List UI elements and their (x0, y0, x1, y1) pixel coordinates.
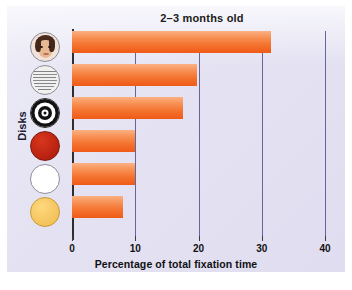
yellow-disk-icon (27, 196, 62, 227)
newsprint-disk-icon (27, 64, 62, 95)
gridline-30 (262, 31, 263, 236)
tick-label-20: 20 (193, 243, 204, 254)
tick-20 (199, 236, 200, 241)
tick-0 (72, 236, 73, 241)
bar-white-disk (72, 163, 135, 185)
disk-icon-column (27, 31, 65, 236)
tick-label-0: 0 (69, 243, 75, 254)
bar-newsprint-disk (72, 64, 197, 86)
tick-label-10: 10 (130, 243, 141, 254)
tick-40 (325, 236, 326, 241)
gridline-10 (135, 31, 136, 236)
bar-red-disk (72, 130, 135, 152)
gridline-40 (325, 31, 326, 236)
chart-title: 2–3 months old (112, 12, 292, 24)
tick-label-30: 30 (256, 243, 267, 254)
gridline-20 (199, 31, 200, 236)
x-axis-label: Percentage of total fixation time (0, 258, 352, 270)
red-disk-icon (27, 130, 62, 161)
bar-face-disk (72, 31, 271, 53)
tick-label-40: 40 (319, 243, 330, 254)
white-disk-icon (27, 163, 62, 194)
bar-bullseye-disk (72, 97, 183, 119)
tick-30 (262, 236, 263, 241)
tick-10 (135, 236, 136, 241)
face-disk-icon (27, 31, 62, 62)
bullseye-disk-icon (27, 97, 62, 128)
bar-yellow-disk (72, 196, 123, 218)
figure: 2–3 months old Disks (0, 0, 352, 290)
plot-area (72, 31, 325, 236)
